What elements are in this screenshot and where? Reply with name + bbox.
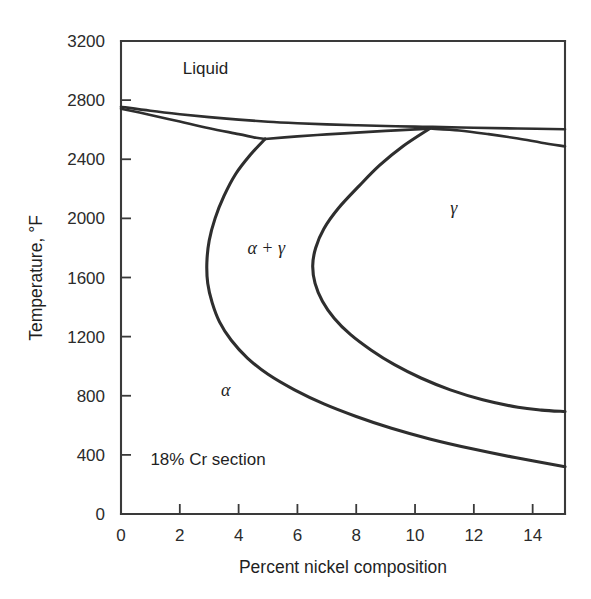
region-label: α + γ bbox=[247, 238, 286, 258]
y-axis-title: Temperature, °F bbox=[26, 215, 46, 341]
y-tick-label: 3200 bbox=[67, 32, 105, 51]
y-tick-label: 800 bbox=[77, 387, 105, 406]
x-tick-label: 0 bbox=[116, 526, 125, 545]
y-tick-label: 0 bbox=[96, 505, 105, 524]
region-label: α bbox=[221, 380, 231, 400]
x-tick-label: 8 bbox=[351, 526, 360, 545]
y-tick-label: 1200 bbox=[67, 328, 105, 347]
phase-diagram-figure: 0400800120016002000240028003200 02468101… bbox=[0, 0, 591, 599]
x-tick-label: 6 bbox=[293, 526, 302, 545]
x-tick-label: 14 bbox=[523, 526, 542, 545]
y-tick-label: 1600 bbox=[67, 269, 105, 288]
region-label: Liquid bbox=[183, 59, 228, 78]
y-tick-label: 400 bbox=[77, 446, 105, 465]
x-tick-label: 4 bbox=[234, 526, 243, 545]
region-label: γ bbox=[450, 198, 458, 218]
y-tick-label: 2400 bbox=[67, 150, 105, 169]
x-tick-label: 10 bbox=[406, 526, 425, 545]
x-axis-title: Percent nickel composition bbox=[239, 557, 447, 577]
region-label: 18% Cr section bbox=[150, 450, 265, 469]
y-tick-label: 2000 bbox=[67, 209, 105, 228]
y-tick-label: 2800 bbox=[67, 91, 105, 110]
x-tick-label: 12 bbox=[464, 526, 483, 545]
x-tick-label: 2 bbox=[175, 526, 184, 545]
figure-background bbox=[0, 0, 591, 599]
